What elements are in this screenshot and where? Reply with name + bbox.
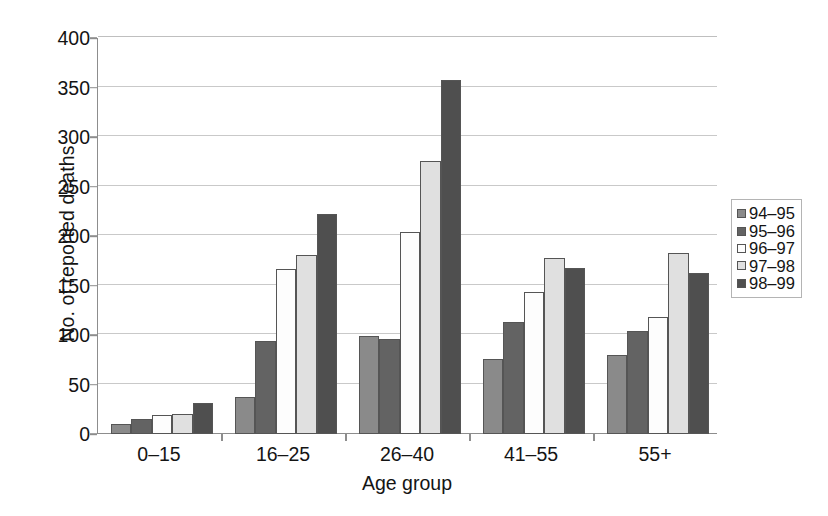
x-tick-mark bbox=[221, 434, 223, 441]
bar bbox=[379, 339, 399, 434]
bars-layer bbox=[97, 38, 717, 434]
legend-label: 98–99 bbox=[749, 275, 795, 292]
bar bbox=[152, 415, 172, 434]
bar bbox=[648, 317, 668, 434]
bar bbox=[565, 268, 585, 434]
y-tick-label: 350 bbox=[30, 76, 90, 99]
y-tick-label: 50 bbox=[30, 373, 90, 396]
legend-item: 94–95 bbox=[737, 205, 795, 222]
y-tick-mark bbox=[90, 433, 97, 435]
y-tick-mark bbox=[90, 136, 97, 138]
legend-item: 95–96 bbox=[737, 222, 795, 239]
bar-chart: No. of reported deaths 05010015020025030… bbox=[0, 0, 828, 516]
legend-label: 97–98 bbox=[749, 258, 795, 275]
y-tick-label: 100 bbox=[30, 324, 90, 347]
bar bbox=[296, 255, 316, 434]
bar bbox=[483, 359, 503, 434]
x-tick-mark bbox=[593, 434, 595, 441]
legend-swatch-icon bbox=[737, 244, 746, 253]
x-tick-label: 16–25 bbox=[218, 443, 348, 466]
legend-item: 96–97 bbox=[737, 240, 795, 257]
y-tick-label: 400 bbox=[30, 27, 90, 50]
bar bbox=[689, 273, 709, 434]
y-tick-label: 0 bbox=[30, 423, 90, 446]
legend-label: 96–97 bbox=[749, 240, 795, 257]
bar bbox=[235, 397, 255, 434]
legend-item: 97–98 bbox=[737, 257, 795, 274]
y-tick-mark bbox=[90, 285, 97, 287]
x-axis-title: Age group bbox=[97, 472, 717, 495]
bar bbox=[131, 419, 151, 434]
y-tick-mark bbox=[90, 87, 97, 89]
bar bbox=[400, 232, 420, 434]
y-tick-mark bbox=[90, 384, 97, 386]
legend-swatch-icon bbox=[737, 279, 746, 288]
x-tick-label: 41–55 bbox=[466, 443, 596, 466]
legend-label: 94–95 bbox=[749, 205, 795, 222]
bar bbox=[359, 336, 379, 434]
gridline bbox=[98, 36, 717, 37]
bar bbox=[276, 269, 296, 434]
x-tick-mark bbox=[469, 434, 471, 441]
bar bbox=[255, 341, 275, 434]
x-tick-mark bbox=[345, 434, 347, 441]
legend-item: 98–99 bbox=[737, 275, 795, 292]
bar bbox=[420, 161, 440, 434]
bar bbox=[668, 253, 688, 434]
legend-label: 95–96 bbox=[749, 223, 795, 240]
y-tick-mark bbox=[90, 186, 97, 188]
y-tick-mark bbox=[90, 334, 97, 336]
y-tick-label: 250 bbox=[30, 175, 90, 198]
bar bbox=[111, 424, 131, 434]
bar bbox=[607, 355, 627, 434]
bar bbox=[503, 322, 523, 434]
y-tick-label: 200 bbox=[30, 225, 90, 248]
y-tick-mark bbox=[90, 235, 97, 237]
y-tick-label: 150 bbox=[30, 274, 90, 297]
legend-swatch-icon bbox=[737, 227, 746, 236]
legend-swatch-icon bbox=[737, 209, 746, 218]
x-tick-label: 26–40 bbox=[342, 443, 472, 466]
bar bbox=[627, 331, 647, 434]
legend-swatch-icon bbox=[737, 261, 746, 270]
bar bbox=[544, 258, 564, 434]
bar bbox=[524, 292, 544, 434]
x-tick-label: 0–15 bbox=[94, 443, 224, 466]
x-tick-label: 55+ bbox=[590, 443, 720, 466]
bar bbox=[193, 403, 213, 434]
y-tick-mark bbox=[90, 37, 97, 39]
bar bbox=[317, 214, 337, 434]
bar bbox=[172, 414, 192, 434]
y-tick-label: 300 bbox=[30, 126, 90, 149]
chart-legend: 94–9595–9696–9797–9898–99 bbox=[731, 199, 802, 298]
bar bbox=[441, 80, 461, 434]
